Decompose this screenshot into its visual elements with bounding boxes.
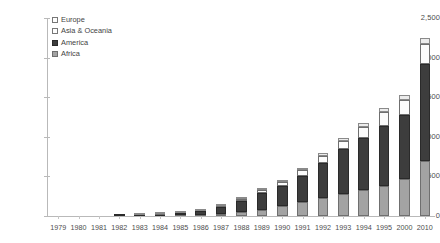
x-tick-mark [160, 216, 161, 219]
x-tick-mark [119, 216, 120, 219]
x-tick-mark [140, 216, 141, 219]
bar-segment-europe-1983 [134, 213, 145, 215]
x-tick-label: 1981 [89, 224, 109, 232]
bar-segment-africa-2010 [420, 161, 431, 216]
bar-segment-america-1990 [277, 186, 288, 206]
x-tick-mark [201, 216, 202, 219]
x-tick-label: 1995 [374, 224, 394, 232]
x-tick-label: 1988 [231, 224, 251, 232]
x-tick-mark [58, 216, 59, 219]
bar-segment-america-1989 [257, 193, 268, 210]
x-tick-label: 1984 [150, 224, 170, 232]
legend-swatch-asia-oceania [52, 28, 58, 34]
bar-segment-america-1985 [175, 213, 186, 215]
bar-segment-america-2000 [399, 115, 410, 178]
bar-segment-america-1988 [236, 201, 247, 213]
bar-segment-america-1991 [297, 176, 308, 202]
y-tick-mark [44, 216, 50, 217]
x-tick-mark [425, 216, 426, 219]
bar-segment-america-2010 [420, 64, 431, 161]
bar-segment-europe-2010 [420, 38, 431, 44]
legend-swatch-america [52, 40, 58, 46]
legend-item-africa: Africa [52, 49, 112, 61]
bar-1983[interactable] [134, 215, 145, 216]
bar-1994[interactable] [358, 123, 369, 216]
x-tick-label: 1986 [191, 224, 211, 232]
x-tick-mark [303, 216, 304, 219]
x-tick-label: 2000 [394, 224, 414, 232]
bar-segment-america-1994 [358, 138, 369, 189]
bar-1995[interactable] [379, 108, 390, 217]
bar-segment-africa-1987 [216, 214, 227, 216]
x-tick-mark [99, 216, 100, 219]
bar-segment-europe-1993 [338, 138, 349, 141]
bar-segment-europe-1984 [155, 212, 166, 214]
chart-figure: 2,5002,0001,5001,0005000 197919801981198… [0, 0, 440, 243]
legend-swatch-africa [52, 51, 58, 57]
bar-segment-europe-1988 [236, 197, 247, 199]
bar-1984[interactable] [155, 214, 166, 216]
bar-1991[interactable] [297, 168, 308, 216]
bar-1988[interactable] [236, 198, 247, 216]
legend-item-america: America [52, 37, 112, 49]
x-tick-label: 1993 [333, 224, 353, 232]
x-tick-label: 1982 [109, 224, 129, 232]
x-tick-mark [364, 216, 365, 219]
chart-legend: Europe Asia & Oceania America Africa [52, 14, 112, 60]
bar-2000[interactable] [399, 95, 410, 216]
x-tick-mark [343, 216, 344, 219]
bar-segment-europe-1990 [277, 180, 288, 182]
x-tick-mark [242, 216, 243, 219]
bar-segment-asia-oceania-1990 [277, 182, 288, 186]
bar-segment-asia-oceania-1991 [297, 170, 308, 176]
bar-segment-europe-1995 [379, 108, 390, 113]
x-tick-label: 1990 [272, 224, 292, 232]
bar-segment-america-1993 [338, 149, 349, 193]
bar-segment-europe-1987 [216, 204, 227, 206]
bar-segment-europe-1991 [297, 168, 308, 170]
bar-1985[interactable] [175, 213, 186, 216]
bar-segment-asia-oceania-1992 [318, 156, 329, 163]
x-tick-mark [384, 216, 385, 219]
bar-2010[interactable] [420, 38, 431, 216]
x-tick-label: 1994 [354, 224, 374, 232]
bar-segment-europe-1992 [318, 153, 329, 155]
legend-label-europe: Europe [61, 16, 85, 24]
bar-1993[interactable] [338, 138, 349, 216]
bar-1987[interactable] [216, 206, 227, 216]
x-tick-mark [221, 216, 222, 219]
x-tick-label: 1985 [170, 224, 190, 232]
bar-segment-africa-1993 [338, 194, 349, 216]
x-tick-mark [79, 216, 80, 219]
bar-segment-europe-1986 [195, 209, 206, 211]
bar-segment-europe-1994 [358, 123, 369, 127]
bar-segment-africa-1989 [257, 210, 268, 216]
x-tick-label: 2010 [415, 224, 435, 232]
bar-segment-europe-1985 [175, 211, 186, 213]
x-tick-label: 1980 [68, 224, 88, 232]
legend-item-asia-oceania: Asia & Oceania [52, 26, 112, 38]
bar-1989[interactable] [257, 189, 268, 216]
x-tick-label: 1992 [313, 224, 333, 232]
x-tick-mark [262, 216, 263, 219]
legend-label-asia-oceania: Asia & Oceania [61, 27, 112, 35]
bar-segment-africa-1995 [379, 186, 390, 216]
bar-1986[interactable] [195, 210, 206, 216]
bar-1990[interactable] [277, 180, 288, 216]
x-tick-label: 1987 [211, 224, 231, 232]
bar-1992[interactable] [318, 153, 329, 216]
bar-segment-africa-2000 [399, 179, 410, 216]
bar-segment-america-1992 [318, 163, 329, 198]
x-tick-label: 1979 [48, 224, 68, 232]
bar-segment-america-1986 [195, 211, 206, 215]
bar-segment-europe-1989 [257, 188, 268, 190]
bar-segment-africa-1992 [318, 198, 329, 216]
bar-segment-asia-oceania-1993 [338, 141, 349, 150]
legend-swatch-europe [52, 17, 58, 23]
bar-segment-africa-1994 [358, 190, 369, 216]
x-tick-mark [180, 216, 181, 219]
bar-segment-asia-oceania-1994 [358, 127, 369, 138]
bar-segment-africa-1991 [297, 202, 308, 216]
x-tick-mark [323, 216, 324, 219]
bar-segment-europe-2000 [399, 95, 410, 101]
